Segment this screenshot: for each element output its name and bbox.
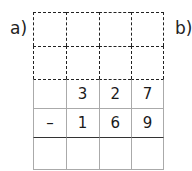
scratch-cell[interactable] [33,12,66,46]
scratch-row-2 [33,46,164,80]
scratch-cell[interactable] [131,46,164,80]
subtraction-grid: 3 2 7 – 1 6 9 [33,12,164,170]
minuend-row: 3 2 7 [33,79,164,108]
digit-cell: 2 [99,79,132,108]
answer-cell[interactable] [99,137,132,170]
scratch-cell[interactable] [131,12,164,46]
digit-cell [33,79,66,108]
digit-cell: 9 [131,108,164,137]
scratch-cell[interactable] [33,46,66,80]
minus-sign: – [33,108,66,137]
answer-cell[interactable] [33,137,66,170]
answer-cell[interactable] [131,137,164,170]
label-b: b) [175,20,192,37]
digit-cell: 1 [66,108,99,137]
scratch-row-1 [33,12,164,46]
scratch-cell[interactable] [66,46,99,80]
answer-cell[interactable] [66,137,99,170]
subtrahend-row: – 1 6 9 [33,108,164,137]
label-a: a) [10,20,27,37]
scratch-cell[interactable] [99,46,132,80]
digit-cell: 6 [99,108,132,137]
scratch-cell[interactable] [66,12,99,46]
digit-cell: 3 [66,79,99,108]
scratch-cell[interactable] [99,12,132,46]
digit-cell: 7 [131,79,164,108]
result-row [33,137,164,170]
